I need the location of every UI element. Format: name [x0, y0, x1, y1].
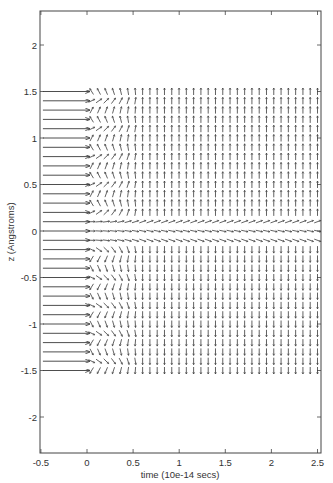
field-arrow [96, 303, 102, 307]
field-arrow [104, 98, 109, 103]
field-arrow [104, 303, 109, 308]
y-tick-label: 0.5 [24, 179, 37, 190]
field-arrow [111, 126, 115, 132]
x-tick-label: 2 [269, 457, 274, 468]
field-arrow [96, 248, 102, 252]
field-arrow [96, 127, 102, 131]
field-arrow [96, 155, 102, 159]
y-tick-label: 1.5 [24, 86, 37, 97]
field-arrow [111, 182, 115, 188]
field-arrow [104, 359, 109, 364]
field-arrow [96, 359, 102, 363]
field-arrow [90, 172, 94, 178]
y-tick-label: -2 [29, 412, 37, 423]
field-arrow [96, 99, 102, 103]
field-arrow [90, 284, 94, 290]
field-arrow [90, 256, 94, 262]
field-arrow [111, 330, 115, 336]
y-tick-label: 0 [32, 226, 37, 237]
x-tick-label: 0.5 [126, 457, 139, 468]
field-arrow [96, 275, 102, 279]
x-tick-label: 0 [84, 457, 89, 468]
field-arrow [104, 210, 109, 215]
field-arrow [111, 358, 115, 364]
x-axis-label: time (10e-14 secs) [141, 469, 220, 480]
field-arrow [104, 154, 109, 159]
field-arrow [90, 200, 94, 206]
x-tick-label: 1 [177, 457, 182, 468]
field-arrow [111, 275, 115, 281]
field-arrow [104, 247, 109, 252]
field-arrow [104, 275, 109, 280]
field-arrow [96, 210, 102, 214]
y-tick-label: -0.5 [21, 272, 37, 283]
field-arrow [96, 331, 102, 335]
field-arrow [111, 210, 115, 216]
field-arrow [104, 331, 109, 336]
field-arrow [111, 154, 115, 160]
x-tick-label: 1.5 [219, 457, 232, 468]
field-arrow [104, 182, 109, 187]
x-tick-label: -0.5 [33, 457, 49, 468]
field-arrow [111, 303, 115, 309]
field-arrow [90, 312, 94, 318]
field-arrow [90, 116, 94, 122]
field-arrow [111, 98, 115, 104]
y-tick-label: 1 [32, 133, 37, 144]
y-axis-label: z (Angstroms) [5, 202, 16, 261]
field-arrow [90, 368, 94, 374]
y-tick-label: 2 [32, 40, 37, 51]
field-arrow [90, 89, 94, 95]
y-tick-label: -1.5 [21, 365, 37, 376]
quiver-plot: -0.500.511.522.5-2-1.5-1-0.500.511.52 ti… [0, 0, 333, 483]
field-arrow [90, 340, 94, 346]
field-arrow [96, 182, 102, 186]
field-arrow [90, 144, 94, 150]
x-tick-label: 2.5 [311, 457, 324, 468]
field-arrow [104, 126, 109, 131]
vector-field [43, 88, 321, 374]
y-tick-label: -1 [29, 319, 37, 330]
plot-frame [40, 11, 321, 453]
field-arrow [111, 247, 115, 253]
